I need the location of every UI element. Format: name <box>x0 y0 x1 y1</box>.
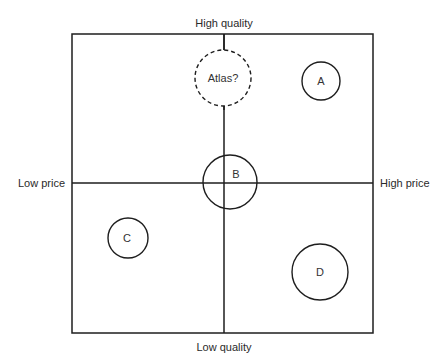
brand-a-label: A <box>317 75 325 87</box>
perceptual-map: High quality Low quality Low price High … <box>0 0 448 364</box>
brand-b-circle <box>203 155 257 209</box>
brand-d-label: D <box>316 266 324 278</box>
brand-atlas-label: Atlas? <box>208 72 239 84</box>
brand-atlas: Atlas? <box>195 34 251 110</box>
brand-c-label: C <box>123 232 131 244</box>
brand-d: D <box>292 244 348 300</box>
brand-a: A <box>302 62 340 100</box>
axis-label-high-quality: High quality <box>195 17 253 29</box>
axis-label-low-quality: Low quality <box>196 341 252 353</box>
axis-label-low-price: Low price <box>18 177 65 189</box>
brand-c: C <box>108 218 148 258</box>
brand-b-label: B <box>232 168 239 180</box>
axis-label-high-price: High price <box>380 177 430 189</box>
brand-b: B <box>203 155 257 209</box>
